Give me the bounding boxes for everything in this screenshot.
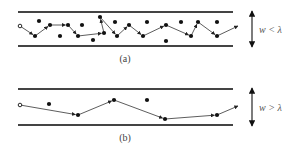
scatterer-dot bbox=[91, 38, 95, 42]
scatterer-dot bbox=[113, 20, 117, 24]
trajectory-segment bbox=[35, 26, 48, 36]
diagram-canvas: w < λ(a)w > λ(b) bbox=[0, 0, 295, 146]
panel-b: w > λ(b) bbox=[18, 88, 282, 144]
panel-caption: (b) bbox=[119, 132, 131, 144]
panel-a: w < λ(a) bbox=[18, 11, 282, 65]
scatterer-dot bbox=[102, 31, 106, 35]
scatterer-dot bbox=[66, 23, 70, 27]
scatterer-dot bbox=[164, 39, 168, 43]
scatterer-dot bbox=[215, 34, 219, 38]
scatterer-dot bbox=[37, 19, 41, 23]
trajectory-segment bbox=[165, 115, 215, 119]
scatterer-dot bbox=[58, 34, 62, 38]
scatterer-dot bbox=[145, 20, 149, 24]
trajectory-segment bbox=[217, 106, 238, 115]
scatterer-dot bbox=[112, 98, 116, 102]
trajectory-segment bbox=[20, 26, 33, 35]
scatterer-dot bbox=[76, 113, 80, 117]
panel-caption: (a) bbox=[119, 53, 130, 65]
scatterer-dot bbox=[196, 20, 200, 24]
scatterer-dot bbox=[33, 34, 37, 38]
start-point bbox=[18, 24, 22, 28]
width-label: w < λ bbox=[259, 24, 282, 35]
trajectory-segment bbox=[217, 26, 238, 36]
trajectory-segment bbox=[129, 25, 141, 34]
trajectory-segment bbox=[166, 25, 189, 35]
scatterer-dot bbox=[127, 23, 131, 27]
trajectory-segment bbox=[78, 101, 112, 115]
scatterer-dot bbox=[179, 20, 183, 24]
scatterer-dot bbox=[80, 23, 84, 27]
scatterer-dot bbox=[215, 113, 219, 117]
scatterer-dot bbox=[76, 34, 80, 38]
scatterer-dot bbox=[164, 23, 168, 27]
scatterer-dot bbox=[115, 34, 119, 38]
scatterer-dot bbox=[215, 20, 219, 24]
trajectory-segment bbox=[143, 26, 164, 36]
scatterer-dot bbox=[98, 15, 102, 19]
trajectory-segment bbox=[198, 22, 215, 35]
scatterer-dot bbox=[48, 23, 52, 27]
trajectory-segment bbox=[20, 105, 76, 115]
scatterer-dot bbox=[189, 34, 193, 38]
scatterer-dot bbox=[163, 117, 167, 121]
trajectory-segment bbox=[114, 100, 163, 118]
start-point bbox=[18, 103, 22, 107]
scatterer-dot bbox=[145, 98, 149, 102]
width-label: w > λ bbox=[259, 102, 282, 113]
trajectory-segment bbox=[78, 33, 102, 36]
scatterer-dot bbox=[47, 102, 51, 106]
scatterer-dot bbox=[141, 34, 145, 38]
